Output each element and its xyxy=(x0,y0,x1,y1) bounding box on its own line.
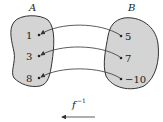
element-a-1: 1 xyxy=(26,30,32,41)
element-b-7: 7 xyxy=(125,53,131,64)
element-a-8: 8 xyxy=(26,73,32,84)
dot-b-neg10 xyxy=(120,78,123,81)
function-superscript: −1 xyxy=(77,97,86,104)
dot-a-3 xyxy=(38,55,41,58)
dot-b-7 xyxy=(120,57,123,60)
dot-a-8 xyxy=(38,77,41,80)
set-b-label: B xyxy=(127,2,135,13)
inverse-function-diagram: A B 1 3 8 5 7 −10 f −1 xyxy=(0,0,163,122)
dot-b-5 xyxy=(120,35,123,38)
element-a-3: 3 xyxy=(26,51,32,62)
dot-a-1 xyxy=(38,34,41,37)
set-a-label: A xyxy=(28,2,36,13)
element-b-5: 5 xyxy=(125,31,131,42)
element-b-neg10: −10 xyxy=(125,74,146,85)
